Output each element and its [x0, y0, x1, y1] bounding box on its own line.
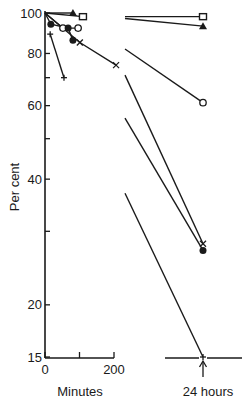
data-point-24h-plus [200, 354, 206, 360]
y-tick-label: 15 [28, 350, 42, 365]
markers [47, 9, 207, 360]
data-point-24h-open-circle [200, 99, 206, 105]
series-lines [45, 13, 203, 357]
data-point-24h-filled-circle [200, 247, 207, 254]
chart: 10080604020150200 Per cent Minutes 24 ho… [0, 0, 251, 402]
data-point-filled-circle [69, 37, 76, 44]
data-point-open-square [79, 14, 86, 20]
series-24h-segment-filled-circle [125, 118, 203, 250]
series-line-cross [45, 13, 116, 65]
break-annotation-label: 24 hours [183, 384, 234, 399]
data-point-open-circle [75, 25, 81, 31]
series-24h-segment-filled-triangle [125, 19, 203, 27]
y-tick-label: 100 [20, 6, 42, 21]
series-24h-segment-open-circle [125, 49, 203, 103]
data-point-plus [61, 75, 67, 81]
data-point-cross [77, 39, 83, 45]
data-point-cross [113, 62, 119, 68]
y-tick-label: 20 [28, 297, 42, 312]
data-point-24h-cross [200, 241, 206, 247]
data-point-filled-circle [65, 25, 72, 32]
data-point-filled-circle [47, 21, 54, 28]
y-tick-label: 80 [28, 46, 42, 61]
y-tick-label: 40 [28, 172, 42, 187]
axes: 10080604020150200 [20, 6, 242, 378]
x-tick-label: 0 [41, 362, 48, 377]
y-tick-label: 60 [28, 98, 42, 113]
series-line-plus [50, 34, 64, 78]
data-point-plus [47, 31, 53, 37]
y-axis-label: Per cent [7, 162, 22, 211]
x-tick-label: 200 [103, 362, 125, 377]
data-point-24h-open-square [200, 14, 207, 20]
x-axis-label: Minutes [57, 384, 103, 399]
